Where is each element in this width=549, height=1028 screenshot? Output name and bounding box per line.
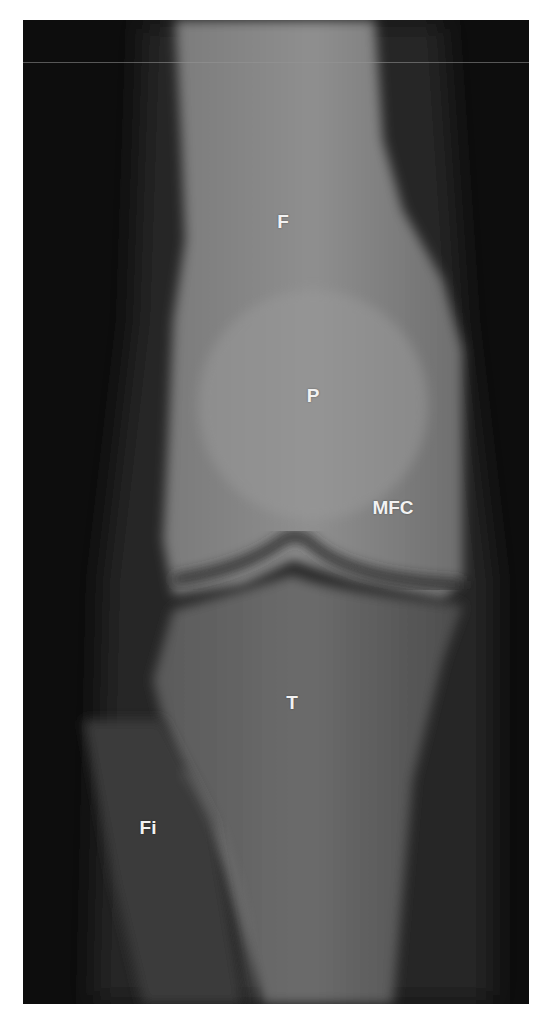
scan-artifact-line: [23, 62, 529, 63]
knee-radiograph: [23, 20, 529, 1004]
radiograph-image: [23, 20, 529, 1004]
label-tibia: T: [286, 692, 298, 714]
label-medial-femoral-condyle: MFC: [372, 497, 413, 519]
label-patella: P: [307, 385, 320, 407]
label-femur: F: [277, 211, 289, 233]
label-fibula: Fi: [140, 817, 157, 839]
